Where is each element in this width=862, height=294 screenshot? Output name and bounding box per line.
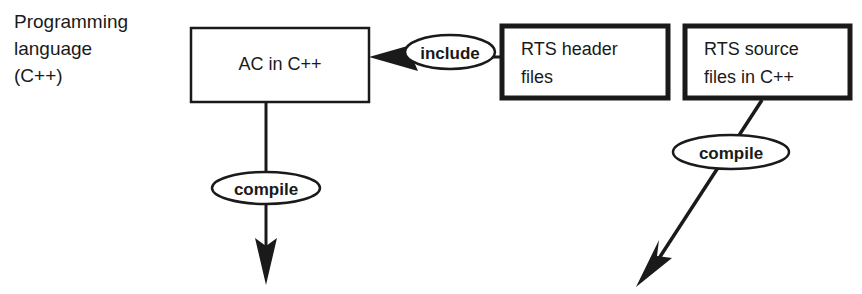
compile-right-edge-label[interactable]: compile <box>673 135 789 169</box>
compile-right-connector-line <box>654 100 762 266</box>
programming-language-label-line-1: Programming <box>14 11 128 32</box>
programming-language-label: Programming language (C++) <box>14 11 128 86</box>
ac-in-cpp-box-label: AC in C++ <box>238 54 321 74</box>
rts-source-files-box-label-line-2: files in C++ <box>704 67 794 87</box>
programming-language-label-line-2: language <box>14 38 92 59</box>
compile-left-edge-label-text: compile <box>234 180 298 199</box>
rts-source-files-box-label-line-1: RTS source <box>704 39 799 59</box>
ac-in-cpp-box[interactable]: AC in C++ <box>191 28 369 102</box>
compile-right-connector <box>636 100 762 287</box>
include-edge-label-text: include <box>420 44 480 63</box>
compile-right-edge-label-text: compile <box>699 144 763 163</box>
include-edge-label[interactable]: include <box>405 35 495 69</box>
rts-header-files-box-frame <box>502 26 668 98</box>
compile-left-edge-label[interactable]: compile <box>212 172 320 204</box>
diagram-canvas: Programming language (C++) AC in C++ RTS… <box>0 0 862 294</box>
rts-header-files-box[interactable]: RTS header files <box>502 26 668 98</box>
programming-language-label-line-3: (C++) <box>14 65 63 86</box>
rts-header-files-box-label-line-2: files <box>521 67 553 87</box>
rts-header-files-box-label-line-1: RTS header <box>521 39 618 59</box>
rts-source-files-box[interactable]: RTS source files in C++ <box>685 26 850 98</box>
rts-source-files-box-frame <box>685 26 850 98</box>
